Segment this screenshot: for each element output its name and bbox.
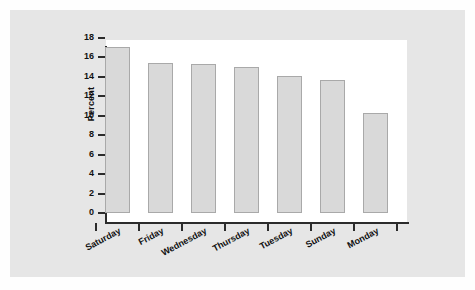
x-axis-tick [310, 223, 312, 231]
y-axis-tick-label-text: 4 [70, 169, 94, 178]
y-axis-tick [98, 56, 105, 58]
x-axis-tick [181, 223, 183, 231]
x-axis-tick [267, 223, 269, 231]
bar [320, 80, 345, 213]
bar [234, 67, 259, 213]
x-axis-tick [95, 223, 97, 231]
y-axis-tick [98, 76, 105, 78]
y-axis-tick-label: 6 [70, 150, 94, 160]
y-axis-tick [98, 37, 105, 39]
y-axis-tick-label: 4 [70, 169, 94, 179]
y-axis-tick-label: 2 [70, 189, 94, 199]
bar [191, 64, 216, 213]
y-axis-tick [98, 193, 105, 195]
figure-panel: Percent 024681012141618 SaturdayFridayWe… [10, 10, 465, 277]
y-axis-tick [98, 154, 105, 156]
y-axis-tick-label-text: 14 [70, 72, 94, 81]
y-axis-tick-label: 12 [70, 91, 94, 101]
y-axis-tick-label-text: 8 [70, 130, 94, 139]
x-axis-line [105, 222, 409, 224]
y-axis-tick-label-text: 16 [70, 52, 94, 61]
y-axis-tick-label-text: 18 [70, 33, 94, 42]
y-axis-tick-label-text: 0 [70, 208, 94, 217]
y-axis-tick-label-text: 6 [70, 150, 94, 159]
bar [363, 113, 388, 213]
y-axis-tick-label: 16 [70, 52, 94, 62]
y-axis-tick-label: 14 [70, 72, 94, 82]
x-axis-tick [396, 223, 398, 231]
y-axis-tick [98, 115, 105, 117]
x-axis-tick [224, 223, 226, 231]
y-axis-tick-label-text: 12 [70, 91, 94, 100]
y-axis-tick [98, 134, 105, 136]
bar [277, 76, 302, 213]
chart-figure: Percent 024681012141618 SaturdayFridayWe… [0, 0, 475, 290]
y-axis-tick [98, 95, 105, 97]
y-axis-tick [98, 173, 105, 175]
y-axis-tick-label: 8 [70, 130, 94, 140]
y-axis-tick-label: 0 [70, 208, 94, 218]
bar [105, 47, 130, 213]
y-axis-tick-label: 10 [70, 111, 94, 121]
y-axis-title: Percent [85, 74, 97, 134]
x-axis-tick [353, 223, 355, 231]
y-axis-tick-label: 18 [70, 33, 94, 43]
y-axis-tick-label-text: 10 [70, 111, 94, 120]
bar [148, 63, 173, 213]
y-axis-tick [98, 212, 105, 214]
y-axis-tick-label-text: 2 [70, 189, 94, 198]
x-axis-tick [138, 223, 140, 231]
